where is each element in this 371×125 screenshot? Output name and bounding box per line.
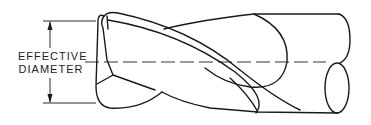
dimension-label-line2: DIAMETER [18,63,84,76]
chisel-edge [97,75,155,90]
margin-edge [107,16,108,29]
body-top-edge [164,14,339,29]
shank-end-ellipse [325,63,349,113]
dimension-label: EFFECTIVE DIAMETER [18,50,84,76]
arrowhead-up-icon [48,21,53,30]
body-bottom-edge [162,92,338,113]
dimension-label-line1: EFFECTIVE [18,50,84,63]
flute-curve-right [205,14,287,87]
flute-edge-outer [104,12,300,110]
arrowhead-down-icon [48,94,53,103]
shank-end-top-arc [339,14,350,63]
